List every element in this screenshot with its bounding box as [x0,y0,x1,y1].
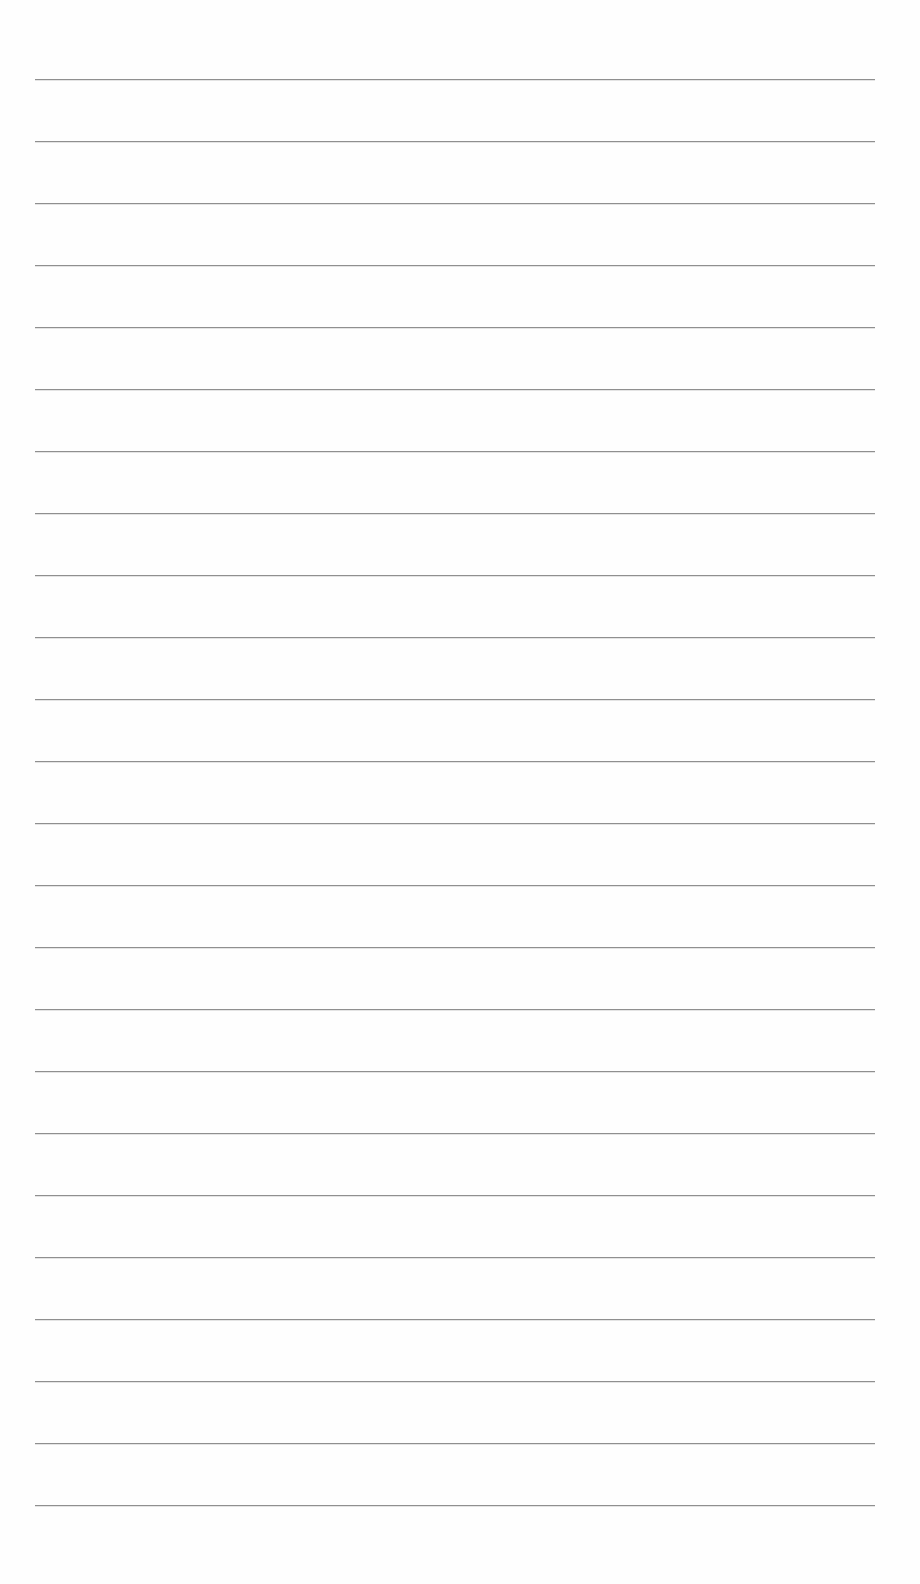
ruled-line [35,761,875,762]
ruled-line [35,79,875,80]
ruled-line [35,451,875,452]
ruled-line [35,1195,875,1196]
ruled-line [35,1257,875,1258]
ruled-line [35,1009,875,1010]
ruled-line [35,947,875,948]
ruled-line [35,1071,875,1072]
ruled-line [35,575,875,576]
ruled-line [35,513,875,514]
ruled-line [35,1133,875,1134]
ruled-line [35,1443,875,1444]
ruled-line [35,389,875,390]
ruled-line [35,637,875,638]
ruled-line [35,327,875,328]
lined-paper-page [0,0,920,1584]
ruled-line [35,823,875,824]
ruled-line [35,1381,875,1382]
ruled-line [35,1505,875,1506]
ruled-line [35,203,875,204]
ruled-line [35,699,875,700]
ruled-line [35,141,875,142]
ruled-line [35,1319,875,1320]
ruled-line [35,265,875,266]
ruled-line [35,885,875,886]
